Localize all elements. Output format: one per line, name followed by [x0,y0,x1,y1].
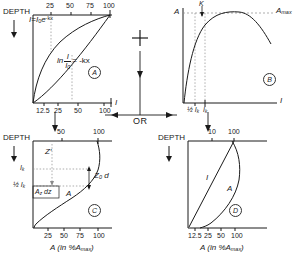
panel-d-xcap-sub: max [231,246,241,252]
panel-a-tag-letter: A [92,69,97,76]
panel-c-tag-letter: C [92,207,97,214]
panel-c-tag: C [88,204,101,217]
panel-b-tag-letter: B [267,76,272,83]
panel-b-amax-label: Amax [276,7,292,16]
panel-d-top-tick-2: 100 [228,128,240,135]
panel-c-z0d-sub: 0 [99,174,102,180]
panel-a-top-tick-2: 50 [66,2,74,9]
panel-d-xcap-main: A (in %A [200,243,231,252]
panel-c-label-zprime: Z′ [45,148,51,156]
panel-a-tag: A [88,66,101,79]
panel-c-label-half-ik: ½ Ik [13,181,25,190]
panel-d-xcap-end: ) [241,243,244,252]
panel-c-label-ik: Ik [20,164,24,173]
panel-c-bottom-tick-4: 100 [93,232,105,239]
panel-d-bottom-tick-1: 12.5 [188,232,202,239]
panel-d-bottom-tick-3: 50 [217,232,225,239]
panel-c-azdz-end: dz [44,188,51,195]
panel-b-k-label: K [199,0,204,7]
panel-a-top-tick-4: 100 [103,2,115,9]
panel-d-bottom-tick-2: 25 [204,232,212,239]
panel-c-depth-label: DEPTH [3,134,30,142]
eq-a-exp-pow: -kx [46,15,53,21]
panel-d-tag: D [229,204,242,217]
panel-b-x-axis-label: I [280,97,282,105]
eq-a-exp-lhs: I=I [29,15,38,24]
eq-a-log-fraction: I I0 [64,53,71,70]
eq-a-log-denominator: I0 [64,62,71,70]
panel-a-depth-label: DEPTH [3,8,30,16]
panel-c-curve-label-a: A [66,190,71,198]
panel-c-x-axis-caption: A (in %Amax) [50,244,94,253]
panel-a-top-tick-3: 75 [86,2,94,9]
panel-c-half-ik-sub: k [23,184,25,189]
panel-c-half-ik-main: ½ I [13,181,23,188]
panel-c-label-az-dz: Az dz [35,188,51,197]
panel-b-tag: B [263,73,276,86]
panel-c-ik-sub: k [22,167,24,172]
panel-a-equation-logarithmic: ln I I0 = -kx [57,53,90,70]
panel-d-bottom-tick-4: 100 [231,232,243,239]
panel-c-xcap-sub: max [81,246,91,252]
panel-c-top-tick-1: 50 [57,128,65,135]
panel-c: DEPTH 50 100 25 50 75 100 [0,128,150,263]
panel-c-bottom-tick-3: 75 [76,232,84,239]
panel-a-equation-exponential: I=I0e-kx [29,16,53,25]
panel-a-top-tick-1: 25 [46,2,54,9]
panel-d-curve-label-a: A [227,185,232,193]
panel-d-depth-label: DEPTH [158,134,185,142]
eq-a-log-ln: ln [57,57,63,65]
panel-d: DEPTH 10 100 12.5 25 50 100 I A D A (in … [155,128,305,263]
panel-c-azdz-sub: z [40,191,42,196]
panel-d-top-tick-1: 10 [208,128,216,135]
panel-c-top-tick-2: 100 [93,128,105,135]
panel-c-xcap-main: A (in %A [50,243,81,252]
panel-c-xcap-end: ) [91,243,94,252]
panel-d-x-axis-caption: A (in %Amax) [200,244,244,253]
panel-c-label-z0d: Z0 d [94,172,109,181]
eq-a-log-rhs: = -kx [72,57,90,65]
panel-d-curve-label-i: I [206,174,208,182]
panel-d-tag-letter: D [233,207,238,214]
panel-c-bottom-tick-1: 25 [44,232,52,239]
panel-b-amax-sub: max [281,9,291,15]
eq-a-log-den-sub: 0 [67,64,70,70]
panel-c-bottom-tick-2: 50 [60,232,68,239]
panel-c-z0d-end: d [104,171,108,180]
panel-b-y-axis-label: A [174,8,179,16]
